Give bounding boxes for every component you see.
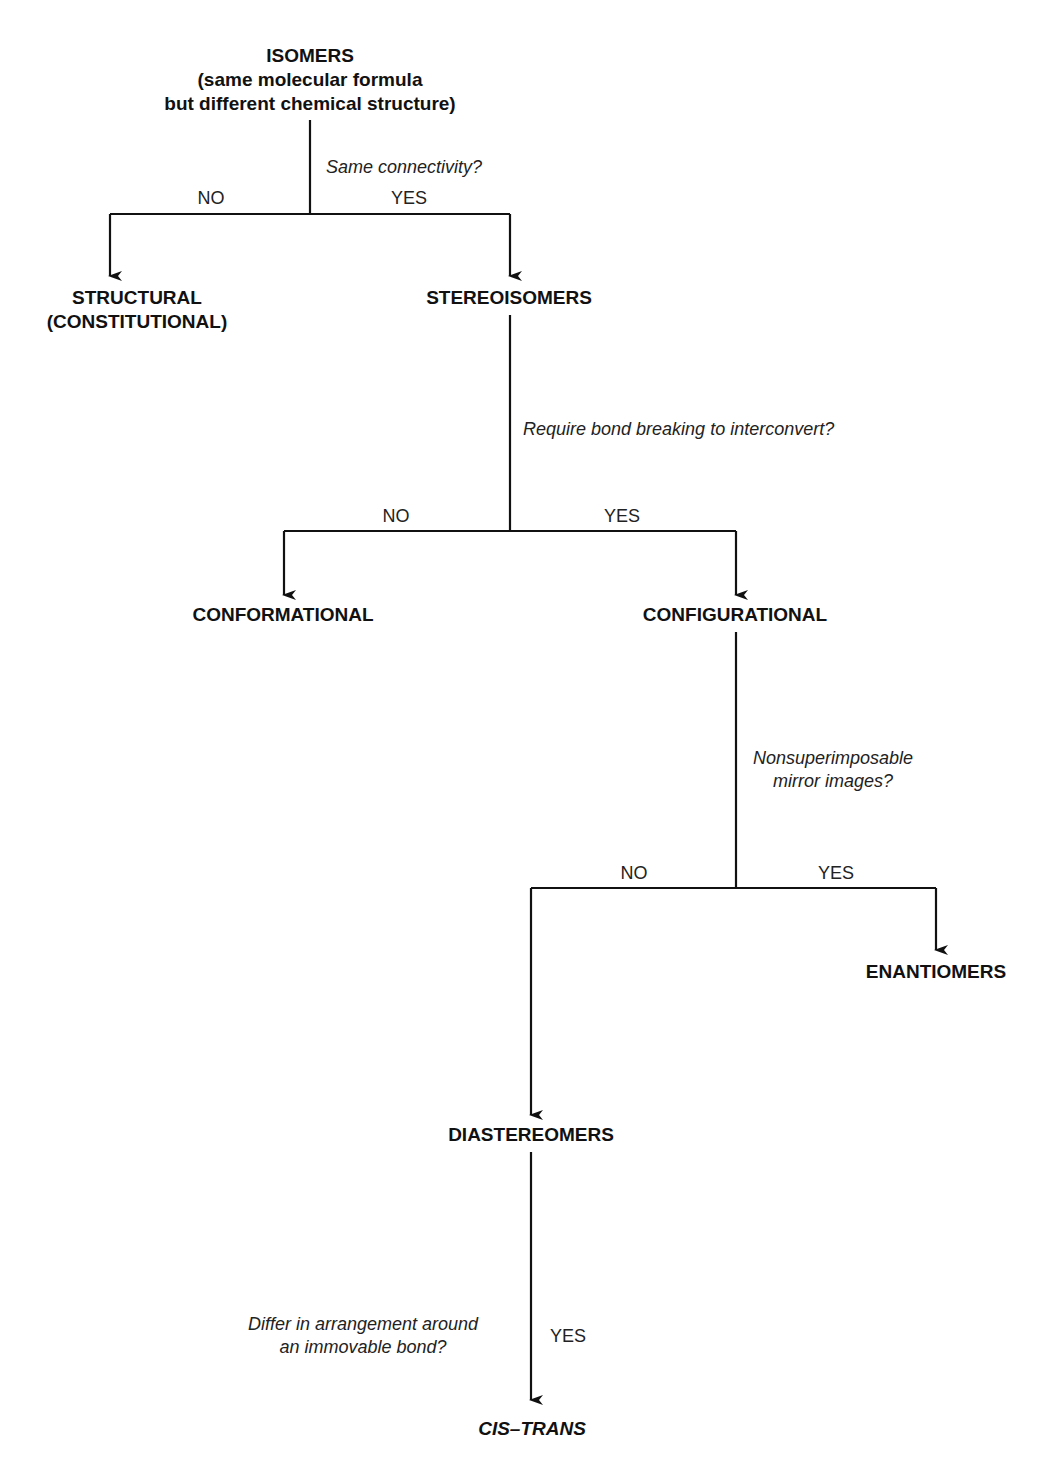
node-diastereomers: DIASTEREOMERS: [448, 1123, 614, 1147]
branch-label-yes: YES: [550, 1325, 586, 1347]
node-configurational: CONFIGURATIONAL: [643, 603, 827, 627]
node-conformational: CONFORMATIONAL: [192, 603, 373, 627]
branch-label-yes: YES: [604, 505, 640, 527]
question-mirror-images-line-1: Nonsuperimposable: [753, 747, 913, 770]
node-isomers: ISOMERS (same molecular formula but diff…: [164, 44, 455, 116]
question-bond-breaking: Require bond breaking to interconvert?: [523, 418, 834, 441]
node-structural: STRUCTURAL (CONSTITUTIONAL): [47, 286, 227, 334]
question-same-connectivity: Same connectivity?: [326, 156, 482, 179]
branch-label-no: NO: [621, 862, 648, 884]
node-enantiomers: ENANTIOMERS: [866, 960, 1006, 984]
branch-label-no: NO: [383, 505, 410, 527]
flowchart-connectors: [0, 0, 1054, 1469]
node-isomers-subtitle-1: (same molecular formula: [164, 68, 455, 92]
branch-label-yes: YES: [391, 187, 427, 209]
branch-label-no: NO: [198, 187, 225, 209]
branch-label-yes: YES: [818, 862, 854, 884]
node-isomers-subtitle-2: but different chemical structure): [164, 92, 455, 116]
question-mirror-images: Nonsuperimposable mirror images?: [753, 747, 913, 793]
node-cis-trans: CIS–TRANS: [478, 1417, 586, 1441]
node-structural-line-1: STRUCTURAL: [47, 286, 227, 310]
question-immovable-bond-line-1: Differ in arrangement around: [248, 1313, 478, 1336]
question-mirror-images-line-2: mirror images?: [753, 770, 913, 793]
node-isomers-title: ISOMERS: [164, 44, 455, 68]
question-immovable-bond-line-2: an immovable bond?: [248, 1336, 478, 1359]
node-structural-line-2: (CONSTITUTIONAL): [47, 310, 227, 334]
question-immovable-bond: Differ in arrangement around an immovabl…: [248, 1313, 478, 1359]
node-stereoisomers: STEREOISOMERS: [426, 286, 592, 310]
